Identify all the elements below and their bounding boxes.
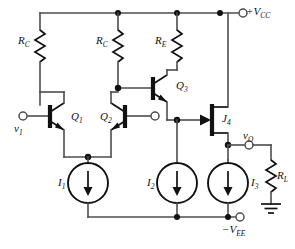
- current-source-i2: [157, 120, 197, 217]
- transistor-label-q2: Q2: [100, 111, 112, 125]
- resistor-rc2: [113, 13, 123, 88]
- output-label-vo: vO: [243, 130, 253, 144]
- current-source-label-i3: I3: [251, 177, 258, 191]
- supply-label-vcc: +VCC: [246, 6, 270, 20]
- transistor-label-q1: Q1: [71, 111, 83, 125]
- current-source-label-i1: I1: [58, 177, 65, 191]
- transistor-q1: [28, 92, 64, 157]
- positive-supply-rail: [40, 9, 247, 17]
- negative-supply-rail: [88, 213, 244, 221]
- current-source-i1: [68, 157, 108, 217]
- circuit-diagram: +VCC RC RC RE RL Q1 Q2 Q3 J4 I1 I2 I3 v1…: [0, 0, 295, 249]
- schematic-canvas: [0, 0, 295, 249]
- ground-symbol: [261, 204, 281, 213]
- resistor-label-rc2: RC: [96, 35, 108, 49]
- transistor-label-j4: J4: [222, 113, 231, 127]
- resistor-label-re: RE: [155, 35, 166, 49]
- supply-label-vee: −VEE: [222, 224, 245, 238]
- resistor-re: [172, 13, 182, 70]
- transistor-label-q3: Q3: [176, 80, 188, 94]
- transistor-q2: [64, 92, 159, 160]
- current-source-label-i2: I2: [147, 177, 154, 191]
- input-terminal-circle[interactable]: [19, 112, 27, 120]
- input-label-v1: v1: [14, 123, 23, 137]
- resistor-label-rl: RL: [277, 170, 288, 184]
- current-source-i3: [208, 160, 248, 217]
- resistor-label-rc1: RC: [18, 35, 30, 49]
